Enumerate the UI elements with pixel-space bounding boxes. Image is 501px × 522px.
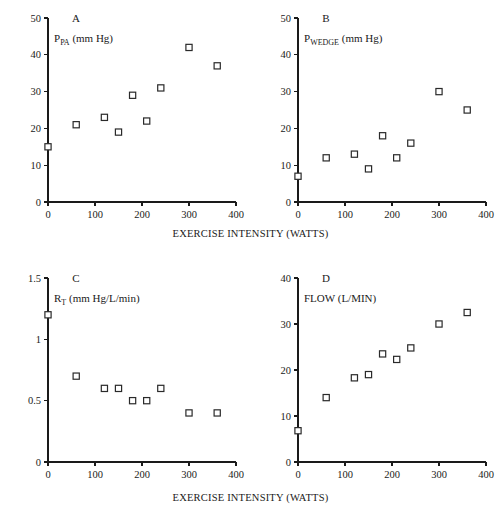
plot-a: 010203040500100200300400APPA (mm Hg) [0,0,250,228]
data-point [295,173,301,179]
x-tick-label: 400 [228,469,244,480]
data-point [130,398,136,404]
data-point [214,410,220,416]
series-label: PPA (mm Hg) [54,32,113,47]
data-point [101,114,107,120]
data-point [365,372,371,378]
y-tick-label: 30 [31,86,42,97]
data-point [115,129,121,135]
axis-lines [48,18,236,202]
y-tick-label: 0 [286,457,291,468]
y-tick-label: 0 [286,197,291,208]
x-tick-label: 300 [181,469,197,480]
plot-c: 00.511.50100200300400CRT (mm Hg/L/min) [0,260,250,488]
data-point [101,385,107,391]
x-tick-label: 100 [337,469,353,480]
y-tick-label: 0 [36,457,41,468]
data-point [73,122,79,128]
axis-lines [298,278,486,462]
axis-lines [48,278,236,462]
data-series [295,309,470,433]
y-tick-label: 1.5 [28,273,41,284]
y-tick-label: 0 [36,197,41,208]
x-tick-label: 200 [134,469,150,480]
data-point [115,385,121,391]
series-label: RT (mm Hg/L/min) [54,292,140,307]
x-tick-label: 300 [431,209,447,220]
data-point [144,398,150,404]
panel-letter: D [322,272,330,284]
data-point [73,373,79,379]
panel-letter: C [72,272,79,284]
data-point [186,410,192,416]
x-tick-label: 300 [181,209,197,220]
x-tick-label: 400 [228,209,244,220]
y-tick-label: 40 [31,49,42,60]
data-point [394,155,400,161]
x-tick-label: 100 [87,469,103,480]
y-tick-label: 20 [31,123,42,134]
panel-c: 00.511.50100200300400CRT (mm Hg/L/min) [0,260,250,488]
plot-b: 010203040500100200300400BPWEDGE (mm Hg) [250,0,500,228]
y-tick-label: 1 [36,334,41,345]
y-tick-label: 50 [281,13,292,24]
data-series [45,312,220,416]
data-point [365,166,371,172]
panel-d: 0102030400100200300400DFLOW (L/MIN) [250,260,500,488]
x-tick-label: 200 [384,469,400,480]
data-point [408,140,414,146]
data-series [45,44,220,150]
data-point [464,309,470,315]
x-tick-label: 300 [431,469,447,480]
x-tick-label: 400 [478,209,494,220]
y-tick-label: 10 [281,160,292,171]
y-tick-label: 40 [281,273,292,284]
data-point [130,92,136,98]
data-point [394,356,400,362]
data-point [380,133,386,139]
data-point [295,428,301,434]
y-tick-label: 50 [31,13,42,24]
x-tick-label: 0 [295,209,300,220]
y-tick-label: 30 [281,86,292,97]
data-point [158,385,164,391]
x-tick-label: 0 [295,469,300,480]
y-tick-label: 0.5 [28,395,41,406]
x-tick-label: 200 [134,209,150,220]
data-point [186,44,192,50]
y-tick-label: 20 [281,365,292,376]
data-point [45,312,51,318]
panel-letter: B [322,12,329,24]
data-point [323,155,329,161]
data-point [45,144,51,150]
data-point [464,107,470,113]
y-tick-label: 40 [281,49,292,60]
panel-a: 010203040500100200300400APPA (mm Hg) [0,0,250,228]
x-tick-label: 100 [87,209,103,220]
plot-d: 0102030400100200300400DFLOW (L/MIN) [250,260,500,488]
x-tick-label: 100 [337,209,353,220]
panel-b: 010203040500100200300400BPWEDGE (mm Hg) [250,0,500,228]
panel-letter: A [72,12,80,24]
series-label: FLOW (L/MIN) [304,292,377,305]
x-axis-label-top: EXERCISE INTENSITY (WATTS) [0,228,501,239]
data-point [351,151,357,157]
y-tick-label: 10 [31,160,42,171]
data-point [323,395,329,401]
x-axis-label-bottom: EXERCISE INTENSITY (WATTS) [0,492,501,503]
series-label: PWEDGE (mm Hg) [304,32,383,47]
data-point [158,85,164,91]
y-tick-label: 20 [281,123,292,134]
y-tick-label: 10 [281,411,292,422]
data-series [295,89,470,180]
x-tick-label: 0 [45,469,50,480]
data-point [214,63,220,69]
data-point [436,89,442,95]
x-tick-label: 200 [384,209,400,220]
y-tick-label: 30 [281,319,292,330]
x-tick-label: 400 [478,469,494,480]
data-point [380,351,386,357]
data-point [408,345,414,351]
data-point [144,118,150,124]
x-tick-label: 0 [45,209,50,220]
